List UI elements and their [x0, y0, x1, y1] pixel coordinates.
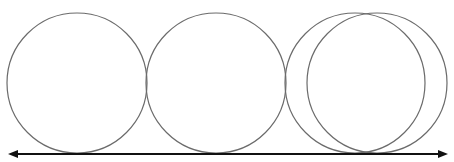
circle-2 — [146, 13, 286, 153]
diagram-canvas — [0, 0, 454, 162]
circle-4 — [307, 13, 447, 153]
circle-group — [7, 13, 447, 153]
baseline-arrow — [8, 150, 448, 158]
arrowhead-right-icon — [438, 150, 448, 158]
arrowhead-left-icon — [8, 150, 18, 158]
circle-1 — [7, 13, 147, 153]
circle-3 — [285, 13, 425, 153]
